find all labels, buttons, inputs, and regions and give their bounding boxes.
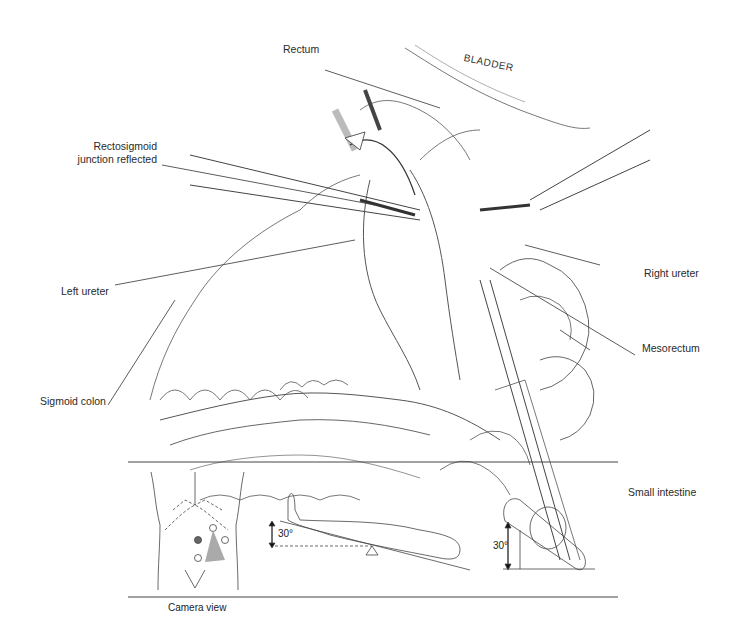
trendelenburg-angle: 30°	[278, 528, 293, 539]
tilt-angle: 30°	[493, 540, 508, 551]
label-rectosigmoid-1: Rectosigmoid	[85, 140, 157, 152]
torso-port-diagram	[151, 472, 244, 590]
label-sigmoid-colon: Sigmoid colon	[40, 395, 106, 407]
trendelenburg-diagram	[269, 493, 470, 570]
label-rectum: Rectum	[283, 43, 319, 55]
surgical-illustration	[0, 0, 735, 639]
tilt-diagram	[503, 499, 595, 570]
label-right-ureter: Right ureter	[644, 267, 699, 279]
label-mesorectum: Mesorectum	[642, 342, 700, 354]
camera-view-label: Camera view	[168, 602, 226, 613]
label-left-ureter: Left ureter	[61, 285, 109, 297]
label-small-intestine: Small intestine	[628, 486, 696, 498]
label-rectosigmoid-2: junction reflected	[60, 153, 157, 165]
